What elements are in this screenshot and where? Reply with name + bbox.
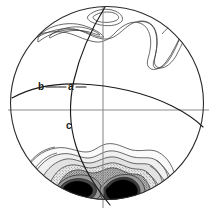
axis-label-b: b xyxy=(38,82,44,92)
contour-maximum-left xyxy=(63,181,93,198)
strong-contour-group-south xyxy=(21,144,177,212)
axis-label-a: a xyxy=(68,82,74,92)
stereonet-canvas xyxy=(0,0,217,212)
axis-label-c: c xyxy=(66,121,72,131)
stereonet-figure: a b c xyxy=(0,0,217,212)
